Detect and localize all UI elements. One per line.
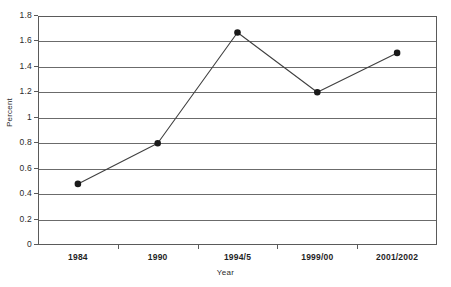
line-chart: 00.20.40.60.811.21.41.61.8 Percent 19841…	[0, 0, 451, 287]
data-point-marker	[75, 181, 82, 188]
data-point-marker	[314, 89, 321, 96]
data-point-marker	[234, 29, 241, 36]
data-series	[0, 0, 451, 287]
data-point-marker	[394, 50, 401, 57]
series-line	[78, 33, 397, 184]
data-point-marker	[154, 140, 161, 147]
